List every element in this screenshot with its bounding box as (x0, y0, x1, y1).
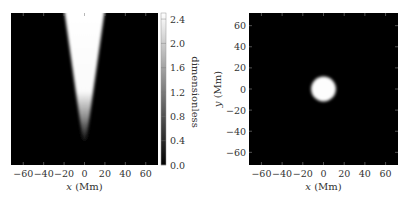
figure: −60−40−200204060 x (Mm) 0.00.40.81.21.62… (0, 0, 409, 198)
right-x-axis-var: x (305, 181, 311, 192)
right-x-tick-label: −40 (272, 168, 292, 179)
left-panel: −60−40−200204060 x (Mm) 0.00.40.81.21.62… (11, 9, 201, 192)
left-x-tick-label: 40 (119, 168, 131, 179)
right-y-tick-label: 0 (240, 84, 246, 95)
left-x-tick-label: −20 (54, 168, 74, 179)
right-x-tick-labels: −60−40−200204060 (251, 168, 391, 179)
right-y-tick-label: −40 (226, 126, 246, 137)
right-x-tick-label: 20 (338, 168, 350, 179)
right-y-tick-labels: −60−40−200204060 (226, 20, 246, 158)
disk-feature (311, 77, 336, 102)
left-x-axis-unit: (Mm) (75, 181, 103, 192)
right-y-tick-label: −20 (226, 105, 246, 116)
right-x-axis-unit: (Mm) (314, 181, 342, 192)
right-x-tick-label: −60 (251, 168, 271, 179)
right-x-tick-label: 0 (320, 168, 326, 179)
colorbar-tick-label: 2.0 (170, 38, 185, 49)
right-y-axis-unit: (Mm) (212, 71, 223, 99)
colorbar-label: dimensionless (190, 56, 201, 128)
colorbar-tick-label: 0.8 (170, 111, 185, 122)
right-x-axis-label: x (Mm) (305, 181, 341, 192)
left-x-tick-label: −60 (13, 168, 33, 179)
left-x-axis-label: x (Mm) (66, 181, 102, 192)
colorbar-tick-label: 0.0 (170, 160, 185, 171)
left-x-tick-label: 20 (99, 168, 111, 179)
right-x-tick-label: 40 (359, 168, 371, 179)
left-x-axis-var: x (66, 181, 72, 192)
right-y-axis-var: y (212, 101, 223, 108)
colorbar-tick-label: 2.4 (170, 14, 185, 25)
left-x-tick-labels: −60−40−200204060 (13, 168, 152, 179)
colorbar-tick-label: 1.6 (170, 62, 185, 73)
colorbar (161, 13, 166, 165)
right-x-tick-label: 60 (380, 168, 392, 179)
left-x-tick-label: −40 (34, 168, 54, 179)
right-y-tick-label: 60 (234, 20, 246, 31)
right-x-tick-label: −20 (293, 168, 313, 179)
right-y-tick-label: 40 (234, 41, 246, 52)
right-y-axis-label: y (Mm) (212, 71, 223, 108)
right-y-tick-label: −60 (226, 147, 246, 158)
right-y-tick-label: 20 (234, 62, 246, 73)
left-x-tick-label: 0 (81, 168, 87, 179)
left-x-tick-label: 60 (140, 168, 152, 179)
colorbar-tick-label: 1.2 (170, 87, 185, 98)
right-panel: −60−40−200204060 −60−40−200204060 x (Mm)… (212, 13, 398, 192)
colorbar-tick-label: 0.4 (170, 135, 185, 146)
